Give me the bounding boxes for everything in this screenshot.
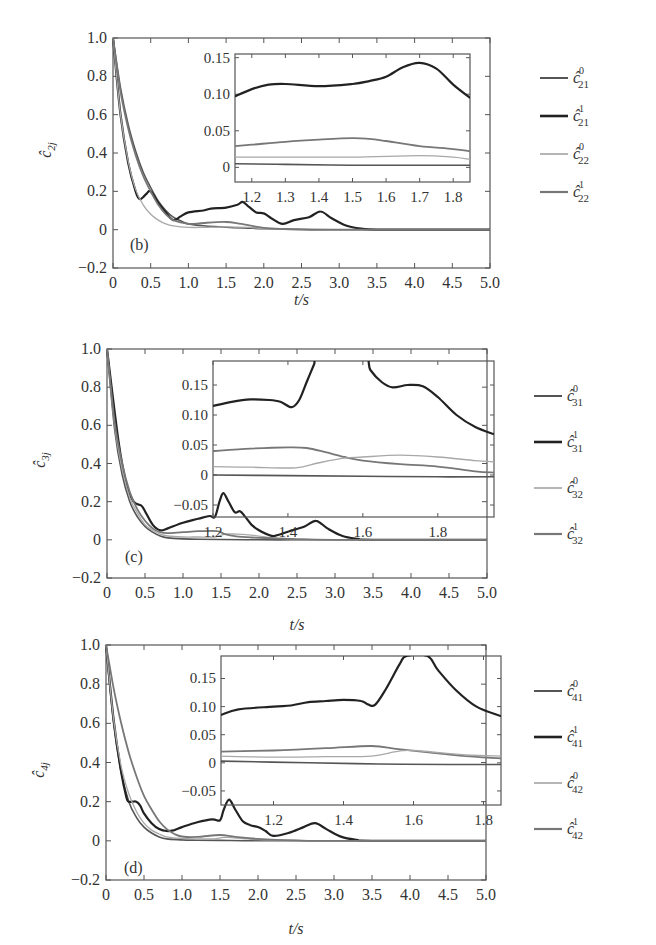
- inset-series-line-c22-0: [235, 156, 470, 160]
- inset-y-tick-label: 0: [209, 755, 217, 771]
- x-tick-label: 5.0: [480, 274, 500, 291]
- y-tick-label: 0.8: [87, 67, 107, 84]
- x-tick-label: 0: [103, 584, 111, 601]
- y-tick-label: 0.2: [87, 182, 107, 199]
- legend-sub: 41: [572, 737, 583, 749]
- x-tick-label: 5.0: [476, 886, 496, 903]
- legend-sup: 1: [573, 816, 578, 827]
- inset-y-tick-label: 0.05: [182, 437, 208, 453]
- figure: 00.51.01.52.02.53.03.54.04.55.0−0.200.20…: [0, 0, 656, 945]
- x-tick-label: 5.0: [477, 584, 497, 601]
- inset-x-tick-label: 1.2: [264, 812, 283, 828]
- inset-series-line-c32-1: [213, 447, 494, 472]
- legend-sub: 32: [572, 488, 583, 500]
- series-line-c32-1: [107, 349, 487, 540]
- inset-y-tick-label: 0.05: [190, 727, 216, 743]
- inset-x-tick-label: 1.7: [410, 189, 429, 205]
- x-tick-label: 3.0: [324, 886, 344, 903]
- legend-sup: 0: [573, 770, 578, 781]
- inset-x-tick-label: 1.2: [242, 189, 261, 205]
- legend: ĉ031ĉ131ĉ032ĉ132: [534, 383, 583, 546]
- y-tick-label: 0.8: [81, 378, 101, 395]
- legend-sup: 1: [573, 521, 578, 532]
- series-line-c41-0: [106, 645, 486, 841]
- y-tick-label: 0: [93, 531, 101, 548]
- inset: 1.21.31.41.51.61.71.800.050.100.15: [204, 50, 470, 205]
- inset-frame: [235, 54, 470, 182]
- legend: ĉ021ĉ121ĉ022ĉ122: [540, 65, 589, 204]
- x-tick-label: 1.5: [210, 886, 230, 903]
- x-tick-label: 3.0: [325, 584, 345, 601]
- inset-series-line-c32-0: [213, 455, 494, 468]
- y-tick-label: 0.4: [87, 144, 107, 161]
- y-tick-label: −0.2: [72, 569, 101, 586]
- legend-entry: ĉ141: [567, 724, 583, 749]
- inset-series-line-c41-1: [221, 655, 501, 717]
- y-tick-label: 1.0: [80, 636, 100, 653]
- x-tick-label: 4.5: [438, 886, 458, 903]
- inset-y-tick-label: −0.05: [173, 497, 208, 513]
- x-tick-label: 1.0: [172, 886, 192, 903]
- legend-entry: ĉ121: [573, 103, 589, 128]
- y-axis-label: ĉ3j: [31, 452, 51, 468]
- panel-label: (c): [125, 548, 143, 566]
- inset-y-tick-label: 0.10: [204, 86, 230, 102]
- legend-entry: ĉ022: [573, 141, 589, 166]
- x-tick-label: 0: [102, 886, 110, 903]
- legend-sub: 31: [572, 396, 583, 408]
- inset-y-tick-label: 0.15: [190, 670, 216, 686]
- legend-sup: 0: [573, 678, 578, 689]
- x-tick-label: 2.0: [254, 274, 274, 291]
- legend-sub: 22: [578, 192, 589, 204]
- legend-sup: 1: [573, 724, 578, 735]
- inset-x-tick-label: 1.6: [377, 189, 396, 205]
- legend: ĉ041ĉ141ĉ042ĉ142: [534, 678, 583, 841]
- legend-sub: 21: [578, 78, 589, 90]
- legend-entry: ĉ031: [567, 383, 583, 408]
- legend-sup: 1: [579, 103, 584, 114]
- inset: 1.21.41.61.8−0.0500.050.100.15: [181, 655, 501, 828]
- x-tick-label: 4.0: [401, 584, 421, 601]
- y-tick-label: 1.0: [87, 29, 107, 46]
- y-tick-label: 0.2: [80, 793, 100, 810]
- legend-sub: 32: [572, 534, 583, 546]
- y-axis-label-sub: 4j: [38, 762, 50, 771]
- legend-entry: ĉ021: [573, 65, 589, 90]
- legend-sup: 1: [579, 179, 584, 190]
- x-tick-label: 2.5: [287, 584, 307, 601]
- legend-sub: 31: [572, 442, 583, 454]
- inset-y-tick-label: 0.05: [204, 123, 230, 139]
- x-tick-label: 2.5: [292, 274, 312, 291]
- inset-x-tick-label: 1.8: [444, 189, 463, 205]
- x-tick-label: 4.0: [400, 886, 420, 903]
- inset-y-tick-label: 0: [201, 467, 209, 483]
- y-tick-label: −0.2: [71, 871, 100, 888]
- y-tick-label: 0.6: [80, 714, 100, 731]
- panel-b: 00.51.01.52.02.53.03.54.04.55.0−0.200.20…: [37, 29, 589, 308]
- y-axis-label-sub: 2j: [45, 142, 57, 151]
- y-tick-label: 0.6: [87, 106, 107, 123]
- x-axis-label: t/s: [289, 616, 304, 633]
- x-tick-label: 4.0: [405, 274, 425, 291]
- x-tick-label: 4.5: [442, 274, 462, 291]
- legend-sup: 0: [573, 383, 578, 394]
- inset-series-line-c22-1: [235, 138, 470, 151]
- inset-x-tick-label: 1.3: [276, 189, 295, 205]
- x-tick-label: 3.5: [363, 584, 383, 601]
- y-tick-label: 0.4: [80, 754, 100, 771]
- inset-series-line-c21-0: [235, 164, 470, 166]
- panel-label: (b): [130, 236, 149, 254]
- inset-y-tick-label: 0.10: [190, 699, 216, 715]
- legend-sub: 42: [572, 783, 583, 795]
- x-tick-label: 3.0: [329, 274, 349, 291]
- legend-sup: 0: [579, 141, 584, 152]
- inset-frame: [213, 361, 494, 517]
- inset-x-tick-label: 1.6: [404, 812, 423, 828]
- inset-frame: [221, 656, 501, 805]
- inset-x-tick-label: 1.2: [204, 524, 223, 540]
- inset-x-tick-label: 1.5: [343, 189, 362, 205]
- x-tick-label: 0.5: [134, 886, 154, 903]
- legend-sub: 41: [572, 691, 583, 703]
- axes-frame: [113, 38, 490, 268]
- legend-entry: ĉ142: [567, 816, 583, 841]
